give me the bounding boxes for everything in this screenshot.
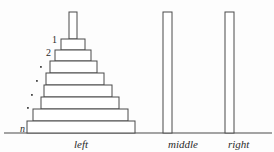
disk-index-label-2: 2 — [46, 48, 51, 58]
disk-index-label-1: 1 — [52, 35, 57, 45]
ellipsis-dot-4 — [27, 107, 29, 109]
ellipsis-dot-2 — [36, 80, 38, 82]
disk-6[interactable] — [41, 97, 119, 109]
peg-rod-left[interactable] — [69, 12, 77, 39]
disk-2[interactable] — [55, 50, 91, 61]
peg-label-middle: middle — [168, 139, 198, 150]
disk-5[interactable] — [44, 85, 112, 97]
peg-label-right: right — [228, 139, 249, 150]
disk-1[interactable] — [61, 39, 85, 50]
tower-of-hanoi-figure: leftmiddleright12n — [0, 0, 274, 152]
bottom-disk-label-n: n — [20, 124, 25, 134]
disk-3[interactable] — [50, 61, 97, 73]
ellipsis-dot-1 — [40, 66, 42, 68]
peg-label-left: left — [74, 139, 88, 150]
peg-rod-right[interactable] — [225, 12, 234, 133]
disk-8[interactable] — [27, 121, 135, 133]
disk-4[interactable] — [46, 73, 104, 85]
peg-rod-middle[interactable] — [163, 12, 172, 133]
ellipsis-dot-3 — [31, 94, 33, 96]
disk-7[interactable] — [33, 109, 128, 121]
diagram-canvas — [0, 0, 274, 152]
